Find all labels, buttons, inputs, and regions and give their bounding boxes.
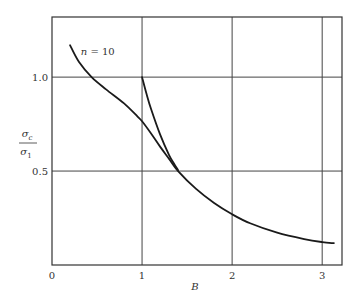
x-tick-label: 2: [229, 270, 235, 281]
y-label-denominator: σ1: [20, 146, 31, 160]
chart: 01230.51.0 B σc σ1 n = 10: [0, 0, 357, 299]
curves: [70, 45, 334, 243]
tick-labels: 01230.51.0: [32, 72, 325, 281]
annotation-label: n = 10: [81, 46, 115, 57]
annotation-value: = 10: [87, 46, 114, 57]
x-tick-label: 1: [139, 270, 145, 281]
annotations: n = 10: [81, 46, 115, 57]
x-tick-label: 3: [319, 270, 325, 281]
y-label-numerator: σc: [22, 128, 33, 142]
y-tick-label: 1.0: [32, 72, 48, 83]
y-label-numerator-sub: c: [28, 134, 32, 142]
x-axis-label: B: [190, 281, 198, 292]
series-line-main: [70, 45, 334, 243]
series-line-branch: [142, 77, 178, 170]
y-tick-label: 0.5: [32, 166, 48, 177]
y-axis-label: σc σ1: [19, 128, 37, 160]
x-tick-label: 0: [49, 270, 55, 281]
y-label-denominator-sub: 1: [27, 152, 31, 160]
